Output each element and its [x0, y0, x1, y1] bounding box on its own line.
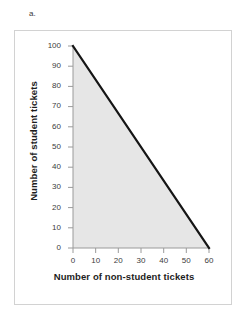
part-label: a.	[29, 9, 36, 19]
screenshot-root: a.	[0, 0, 246, 318]
y-tick-marks	[68, 46, 73, 248]
x-axis-title: Number of non-student tickets	[15, 271, 233, 282]
y-axis-title-holder: Number of student tickets	[25, 31, 41, 251]
x-tick-label: 10	[84, 256, 108, 265]
chart-frame: 100 90 80 70 60 50 40 30 20 10 0 0 10 20…	[14, 30, 232, 305]
x-tick-label: 30	[129, 256, 153, 265]
y-axis-title: Number of student tickets	[28, 81, 39, 201]
x-tick-label: 60	[197, 256, 221, 265]
x-tick-marks	[73, 248, 209, 253]
x-tick-label: 50	[174, 256, 198, 265]
x-tick-label: 40	[152, 256, 176, 265]
x-tick-label: 20	[106, 256, 130, 265]
plot-area: 100 90 80 70 60 50 40 30 20 10 0 0 10 20…	[15, 31, 233, 306]
x-tick-label: 0	[61, 256, 85, 265]
